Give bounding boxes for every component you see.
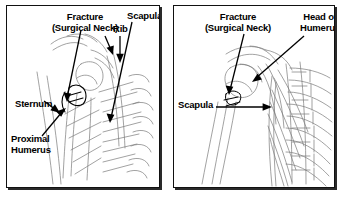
label-fracture-left-line1: Fracture xyxy=(37,12,133,23)
label-fracture-right-line2: (Surgical Neck) xyxy=(186,23,290,34)
fracture-arrowhead-left xyxy=(63,93,71,102)
label-rib-left: Rib xyxy=(113,24,128,35)
fracture-leader-right xyxy=(230,34,244,90)
label-proximal-humerus-left-line2: Humerus xyxy=(11,145,83,156)
label-scapula-right-line1: Scapula xyxy=(178,100,213,111)
right-soft-tissue-sketch xyxy=(202,46,332,186)
scapula-arrowhead-right xyxy=(263,103,272,111)
figure-root: Fracture (Surgical Neck) Rib Scapula Ste… xyxy=(0,0,340,197)
fracture-leader-left xyxy=(67,30,81,98)
left-panel: Fracture (Surgical Neck) Rib Scapula Ste… xyxy=(6,5,160,188)
label-head-of-humerus-right-line2: Humerus xyxy=(290,23,335,34)
right-panel-artwork xyxy=(174,6,334,187)
rib-arrowhead-left xyxy=(116,54,124,63)
left-panel-artwork xyxy=(7,6,159,187)
label-sternum-left-line1: Sternum xyxy=(15,99,52,110)
scapula-arrowhead-left xyxy=(107,114,115,124)
label-proximal-humerus-left: Proximal Humerus xyxy=(11,134,83,155)
label-proximal-humerus-left-line1: Proximal xyxy=(11,134,83,145)
label-sternum-left: Sternum xyxy=(15,99,52,110)
label-fracture-right: Fracture (Surgical Neck) xyxy=(186,12,290,33)
label-head-of-humerus-right: Head of Humerus xyxy=(290,12,335,33)
label-rib-left-line1: Rib xyxy=(113,24,128,35)
left-bone-outlines xyxy=(62,85,86,112)
label-scapula-left: Scapula xyxy=(127,11,160,22)
rib-arrowhead2-left xyxy=(107,45,114,55)
label-head-of-humerus-right-line1: Head of xyxy=(290,12,335,23)
label-scapula-left-line1: Scapula xyxy=(127,11,160,22)
right-panel: Fracture (Surgical Neck) Head of Humerus… xyxy=(173,5,335,188)
label-scapula-right: Scapula xyxy=(178,100,213,111)
right-bone-outlines xyxy=(224,91,241,106)
label-fracture-right-line1: Fracture xyxy=(186,12,290,23)
